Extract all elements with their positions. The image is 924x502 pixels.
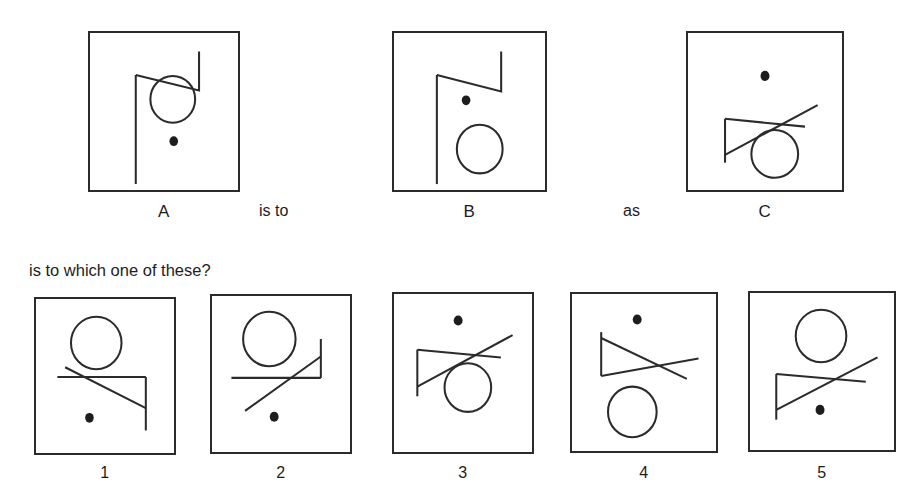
panel-label-a: A [88,203,240,220]
analogy-test-sheet: A is to B as C is to which one of these? [0,0,924,502]
option-panel-3[interactable] [392,292,534,454]
option-label-5: 5 [748,465,896,481]
figure-option-3 [394,294,532,452]
dot-marker [85,413,94,423]
dot-marker [816,405,825,415]
figure-option-1 [36,299,174,453]
panel-label-b: B [392,203,547,220]
connector-as: as [623,203,640,219]
stimulus-panel-a[interactable] [88,31,240,192]
connector-is-to: is to [259,203,288,219]
dot-marker [761,71,770,81]
figure-option-2 [212,296,350,452]
panel-label-c: C [686,203,844,220]
dot-marker [633,314,642,324]
option-label-4: 4 [570,465,718,481]
option-panel-2[interactable] [210,294,352,454]
option-panel-1[interactable] [34,297,176,455]
option-panel-4[interactable] [570,292,718,453]
figure-b [394,33,545,190]
dot-marker [462,95,471,105]
dot-marker [270,412,279,422]
figure-a [90,33,238,190]
option-label-3: 3 [392,465,534,481]
dot-marker [169,136,178,146]
question-prompt: is to which one of these? [29,262,211,279]
dot-marker [454,315,463,325]
stimulus-panel-c[interactable] [686,31,844,192]
figure-option-5 [750,293,894,450]
figure-option-4 [572,294,716,451]
option-panel-5[interactable] [748,291,896,452]
stimulus-panel-b[interactable] [392,31,547,192]
figure-c [688,33,842,190]
option-label-2: 2 [210,465,352,481]
option-label-1: 1 [34,465,176,481]
